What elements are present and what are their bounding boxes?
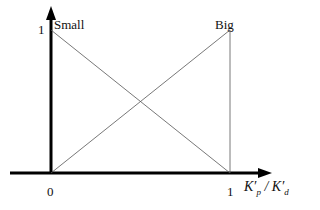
small-set-label: Small — [54, 18, 84, 31]
big-set-label: Big — [215, 18, 234, 31]
y-tick-1: 1 — [38, 23, 45, 36]
x-tick-0: 0 — [47, 185, 54, 198]
x-axis-arrow-icon — [258, 168, 272, 178]
x-axis-label: K′p / K′d — [244, 180, 289, 197]
x-tick-1: 1 — [227, 185, 234, 198]
